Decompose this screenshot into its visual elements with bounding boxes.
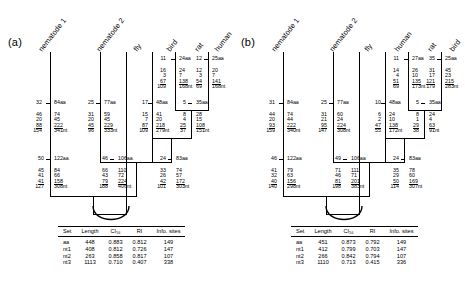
- branch-rat-bird: [424, 110, 425, 138]
- summary-table-b: Set Length CI₅₆ RI Info. sites aa 451 0.…: [291, 226, 418, 266]
- numbers-inner-right-left: 24 33 26 42 101: [148, 156, 166, 190]
- root-arc: [321, 206, 367, 228]
- leaf-label-fly: fly: [362, 42, 374, 54]
- branch-nematode-2: [333, 52, 334, 162]
- leaf-label-nematode-2: nematode 2: [94, 16, 126, 53]
- tick-nem1: [279, 103, 283, 104]
- numbers-inner-mid-left: 46 66 43 79 188: [90, 156, 108, 190]
- panel-b: (b) nematode 1 nematode 2 fly human rat …: [233, 0, 465, 282]
- panel-b-label: (b): [241, 36, 255, 48]
- numbers-inner-right-right: 83aa 78 60 169 307nt: [409, 156, 435, 190]
- branch-nematode-1: [283, 52, 284, 196]
- table-row: nt2 263 0.858 0.817 107: [58, 252, 185, 259]
- numbers-rodent-node-right: 35aa 24 4 63 91nt: [429, 100, 453, 134]
- branch-rodent-primate: [191, 110, 192, 138]
- tick-human-node: [381, 103, 385, 104]
- branch-nematode-1: [50, 52, 51, 196]
- leaf-label-human: human: [392, 30, 413, 54]
- numbers-bird-terminal-left: 35 31 17 121 179: [417, 56, 435, 90]
- table-row: nt1 408 0.812 0.726 147: [58, 245, 185, 252]
- tick-rat-terminal: [171, 59, 175, 60]
- table-row: aa 448 0.883 0.812 149: [58, 237, 185, 246]
- col-header-ci: CI₅₆: [337, 227, 361, 237]
- tick-human-terminal: [204, 59, 208, 60]
- numbers-inner-mid-left: 49 71 46 81 198: [323, 156, 341, 190]
- tick-nem2: [96, 103, 100, 104]
- root-arc: [88, 206, 134, 228]
- col-header-info-sites: Info. sites: [152, 227, 186, 237]
- tick-nem1: [46, 103, 50, 104]
- col-header-ci: CI₅₆: [104, 227, 128, 237]
- leaf-label-bird: bird: [447, 38, 462, 54]
- leaf-label-human: human: [212, 30, 233, 54]
- summary-table-a: Set Length CI₅₆ RI Info. sites aa 448 0.…: [58, 226, 185, 266]
- numbers-inner-right-right: 83aa 74 57 172 303nt: [176, 156, 202, 190]
- leaf-label-rat: rat: [192, 41, 205, 54]
- leaf-label-rat: rat: [425, 41, 438, 54]
- numbers-human-terminal-right: 25aa 20 7 141 168nt: [212, 56, 234, 90]
- tick-nem2: [329, 103, 333, 104]
- tick-rat-terminal: [404, 59, 408, 60]
- col-header-set: Set: [291, 227, 309, 237]
- leaf-label-bird: bird: [164, 38, 179, 54]
- panel-a-label: (a): [8, 36, 22, 48]
- numbers-nem2-left: 25 31 21 95 147: [309, 100, 327, 134]
- col-header-set: Set: [58, 227, 76, 237]
- numbers-nem1-right: 84aa 74 45 222 341nt: [54, 100, 78, 134]
- numbers-rodent-node-right: 35aa 28 15 108 151nt: [196, 100, 220, 134]
- col-header-ri: RI: [128, 227, 152, 237]
- numbers-nem2-right: 77aa 59 45 229 333nt: [104, 100, 128, 134]
- tick-rodent-node: [421, 103, 425, 104]
- numbers-nem1-left: 31 44 20 93 159: [257, 100, 275, 134]
- branch-nematode-2: [100, 52, 101, 162]
- numbers-bird-terminal-right: 25aa 45 23 215 283nt: [445, 56, 465, 90]
- numbers-rodent-node-left: 5 8 1 29 38: [403, 100, 419, 134]
- numbers-inner-left-right: 122aa 79 63 156 298nt: [287, 156, 313, 190]
- numbers-inner-mid-right: 106aa 110 72 224 406nt: [118, 156, 144, 190]
- leaf-label-nematode-2: nematode 2: [327, 16, 359, 53]
- numbers-inner-mid-right: 106aa 111 71 201 383nt: [351, 156, 377, 190]
- leaf-label-fly: fly: [131, 42, 143, 54]
- tick-inner-left: [279, 159, 283, 160]
- leaf-label-nematode-1: nematode 1: [269, 16, 301, 53]
- tick-bird: [148, 103, 152, 104]
- numbers-nem2-left: 25 31 20 45 96: [76, 100, 94, 134]
- numbers-rat-terminal-left: 11 14 4 51 69: [381, 56, 399, 90]
- numbers-human-terminal-left: 12 12 3 54 69: [184, 56, 202, 90]
- tick-inner-mid: [110, 159, 114, 160]
- numbers-inner-left-left: 50 45 41 41 127: [26, 156, 44, 190]
- numbers-inner-left-left: 46 41 32 40 140: [259, 156, 277, 190]
- table-row: nt3 1113 0.710 0.407 338: [58, 259, 185, 266]
- tick-inner-left: [46, 159, 50, 160]
- tick-inner-right: [168, 159, 172, 160]
- col-header-length: Length: [76, 227, 103, 237]
- numbers-nem1-left: 32 46 20 88 154: [24, 100, 42, 134]
- table-row: nt2 266 0.842 0.794 107: [291, 252, 418, 259]
- numbers-nem2-right: 77aa 60 24 224 308nt: [337, 100, 361, 134]
- tick-bird-terminal: [437, 59, 441, 60]
- numbers-rat-terminal-left: 11 16 3 67 109: [148, 56, 166, 90]
- col-header-length: Length: [309, 227, 336, 237]
- table-row: nt3 1110 0.713 0.415 336: [291, 259, 418, 266]
- numbers-nem1-right: 84aa 74 44 222 340nt: [287, 100, 311, 134]
- col-header-ri: RI: [361, 227, 385, 237]
- leaf-label-nematode-1: nematode 1: [36, 16, 68, 53]
- tick-inner-right: [401, 159, 405, 160]
- numbers-human-node-left: 10 6 2 47 55: [363, 100, 381, 134]
- numbers-inner-left-right: 122aa 84 66 158 308nt: [54, 156, 80, 190]
- numbers-rodent-node-left: 5 8 4 25 37: [170, 100, 186, 134]
- table-row: nt1 412 0.799 0.703 147: [291, 245, 418, 252]
- table-row: aa 451 0.873 0.792 149: [291, 237, 418, 246]
- tick-rodent-node: [188, 103, 192, 104]
- panel-a: (a) nematode 1 nematode 2 fly bird rat h…: [0, 0, 232, 282]
- tick-inner-mid: [343, 159, 347, 160]
- col-header-info-sites: Info. sites: [385, 227, 419, 237]
- numbers-inner-right-left: 24 35 29 50 114: [381, 156, 399, 190]
- numbers-bird-left: 17 15 7 87 109: [130, 100, 148, 134]
